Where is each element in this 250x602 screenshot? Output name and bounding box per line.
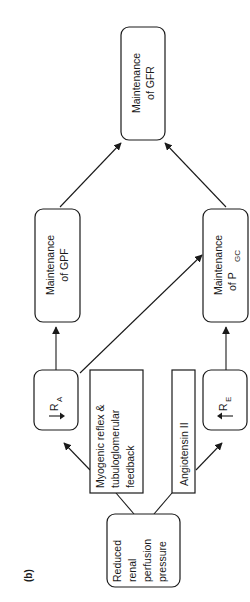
edge-reduced-angiotensin bbox=[154, 493, 172, 514]
svg-text:of GFR: of GFR bbox=[144, 66, 156, 100]
svg-text:renal: renal bbox=[126, 559, 138, 582]
svg-text:R: R bbox=[217, 403, 229, 411]
figure-label: (b) bbox=[23, 569, 34, 582]
svg-text:of GPF: of GPF bbox=[58, 248, 70, 281]
node-angiotensin-ii: Angiotensin II bbox=[172, 370, 195, 493]
node-maintenance-gpf: Maintenance of GPF bbox=[35, 209, 80, 322]
svg-text:Myogenic reflex &: Myogenic reflex & bbox=[94, 405, 106, 488]
svg-text:Maintenance: Maintenance bbox=[130, 53, 142, 113]
node-reduced-renal-perfusion-pressure: Reduced renal perfusion pressure bbox=[107, 514, 180, 587]
svg-text:Angiotensin II: Angiotensin II bbox=[178, 422, 190, 486]
svg-text:R: R bbox=[48, 403, 60, 411]
svg-text:Maintenance: Maintenance bbox=[44, 235, 56, 295]
edge-ra-pgc bbox=[80, 255, 202, 373]
node-maintenance-gfr: Maintenance of GFR bbox=[121, 27, 165, 140]
svg-text:of P: of P bbox=[226, 272, 238, 291]
svg-text:E: E bbox=[224, 397, 233, 402]
svg-text:feedback: feedback bbox=[124, 445, 136, 488]
node-afferent-resistance: R A bbox=[34, 370, 78, 430]
node-myogenic-reflex-tgf: Myogenic reflex & tubuloglomerular feedb… bbox=[90, 370, 143, 493]
svg-text:A: A bbox=[55, 396, 64, 402]
svg-text:perfusion: perfusion bbox=[141, 539, 153, 582]
svg-text:Maintenance: Maintenance bbox=[212, 235, 224, 295]
svg-text:GC: GC bbox=[233, 250, 242, 262]
svg-text:pressure: pressure bbox=[156, 541, 168, 582]
edge-myogenic-ra bbox=[64, 443, 90, 470]
edge-gpf-gfr bbox=[60, 143, 121, 207]
node-efferent-resistance: R E bbox=[203, 370, 247, 430]
svg-text:Reduced: Reduced bbox=[111, 540, 123, 582]
edge-angiotensin-re bbox=[196, 443, 222, 470]
svg-text:tubuloglomerular: tubuloglomerular bbox=[109, 409, 121, 488]
edge-reduced-myogenic bbox=[116, 493, 134, 514]
node-maintenance-pgc: Maintenance of P GC bbox=[203, 209, 248, 322]
diagram-canvas: (b) Reduced renal perfusion pressure Myo… bbox=[0, 0, 250, 602]
edge-pgc-gfr bbox=[165, 143, 226, 207]
